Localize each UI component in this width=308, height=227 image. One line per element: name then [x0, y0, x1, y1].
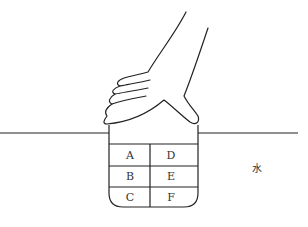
cell-label-a: A — [125, 149, 135, 162]
diagram-svg: A D B E C F 水 — [0, 0, 308, 227]
water-label: 水 — [252, 163, 262, 174]
cell-label-f: F — [167, 191, 175, 204]
hand-icon — [104, 12, 208, 124]
cell-label-b: B — [126, 170, 134, 183]
cell-label-d: D — [167, 149, 176, 162]
cell-label-c: C — [126, 191, 134, 204]
bottle — [109, 125, 198, 207]
cell-label-e: E — [167, 170, 175, 183]
diagram-canvas: A D B E C F 水 — [0, 0, 308, 227]
